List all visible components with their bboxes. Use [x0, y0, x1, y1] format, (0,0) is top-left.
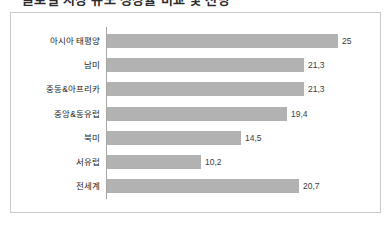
- bar-row: 남미21,3: [11, 58, 380, 72]
- bar-category-label: 전세계: [11, 182, 100, 191]
- bar-value-label: 14,5: [245, 134, 262, 143]
- bar-category-label: 북미: [11, 134, 100, 143]
- bar: [107, 179, 299, 193]
- bar-row: 서유럽10,2: [11, 155, 380, 169]
- bar-category-label: 중동&아프리카: [11, 85, 100, 94]
- bar-value-label: 10,2: [205, 158, 222, 167]
- bar-row: 전세계20,7: [11, 179, 380, 193]
- bar-value-label: 21,3: [308, 85, 325, 94]
- bar-category-label: 남미: [11, 61, 100, 70]
- bar: [107, 58, 304, 72]
- cropped-title-sliver: 글로벌 시장 규모 성장률 비교 및 전망: [0, 0, 392, 9]
- bar: [107, 155, 201, 169]
- bar-row: 중앙&동유럽19,4: [11, 107, 380, 121]
- bar-value-label: 20,7: [303, 182, 320, 191]
- bar-row: 중동&아프리카21,3: [11, 82, 380, 96]
- bar-row: 북미14,5: [11, 131, 380, 145]
- bar-category-label: 서유럽: [11, 158, 100, 167]
- bar: [107, 34, 338, 48]
- chart-frame: 아시아 태평양25남미21,3중동&아프리카21,3중앙&동유럽19,4북미14…: [10, 12, 381, 213]
- bar-row: 아시아 태평양25: [11, 34, 380, 48]
- bar-value-label: 25: [342, 37, 351, 46]
- bar-category-label: 중앙&동유럽: [11, 109, 100, 118]
- bar: [107, 107, 287, 121]
- bar: [107, 131, 241, 145]
- bar-category-label: 아시아 태평양: [11, 37, 100, 46]
- bar-value-label: 21,3: [308, 61, 325, 70]
- bar-chart-plot-area: 아시아 태평양25남미21,3중동&아프리카21,3중앙&동유럽19,4북미14…: [11, 13, 380, 212]
- bar-value-label: 19,4: [291, 109, 308, 118]
- bar: [107, 82, 304, 96]
- cropped-title-text: 글로벌 시장 규모 성장률 비교 및 전망: [22, 0, 230, 8]
